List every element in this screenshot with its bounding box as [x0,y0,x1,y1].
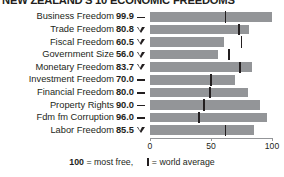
world-average-marker [239,62,241,73]
economic-freedoms-chart: NEW ZEALAND'S 10 ECONOMIC FREEDOMS Busin… [0,0,284,177]
row-value: 80.0 [112,87,134,98]
bar-track [150,99,272,112]
chart-plot-area [150,11,272,137]
bar-track [150,124,272,137]
bar [150,37,224,47]
world-average-tick-icon [147,158,149,166]
bar [150,50,218,60]
row-label: Monetary Freedom [0,62,114,73]
row-label: Financial Freedom [0,87,114,98]
footnote-most-free-text: = most free, [84,157,133,167]
row-value: 70.0 [112,74,134,85]
row-label: Fdm fm Corruption [0,112,114,123]
row-label: Business Freedom [0,11,114,22]
axis-tick-label: 50 [206,141,216,151]
row-label: Labor Freedom [0,125,114,136]
row-value: 80.8 [112,24,134,35]
bar-track [150,24,272,37]
row-value: 96.0 [112,112,134,123]
x-axis: 050100 [150,138,272,156]
trend-flat-icon [136,99,148,111]
row-label: Investment Freedom [0,74,114,85]
row-label: Trade Freedom [0,24,114,35]
bar-track [150,36,272,49]
bar [150,88,248,98]
world-average-marker [238,24,240,35]
row-value: 90.0 [112,100,134,111]
bar [150,12,272,22]
bar [150,75,235,85]
bar-track [150,74,272,87]
world-average-marker [225,11,227,22]
trend-flat-icon [136,11,148,23]
bar [150,125,254,135]
footnote-most-free-value: 100 [69,157,84,167]
axis-tick-label: 0 [148,141,153,151]
bar [150,100,260,110]
row-label: Government Size [0,49,114,60]
trend-down-icon [136,49,148,61]
row-label: Fiscal Freedom [0,37,114,48]
world-average-marker [225,125,227,136]
bar-track [150,11,272,24]
bar-track [150,87,272,100]
bar [150,113,267,123]
chart-footnote: 100 = most free,= world average [0,157,284,168]
row-value: 99.9 [112,11,134,22]
row-value: 83.7 [112,62,134,73]
bar-track [150,112,272,125]
bar-track [150,49,272,62]
world-average-marker [228,49,230,60]
trend-flat-icon [136,112,148,124]
trend-flat-icon [136,74,148,86]
row-value: 56.0 [112,49,134,60]
world-average-marker [210,74,212,85]
trend-down-icon [136,36,148,48]
trend-down-icon [136,61,148,73]
trend-down-icon [136,124,148,136]
world-average-marker [241,36,243,47]
world-average-marker [203,99,205,110]
world-average-marker [209,87,211,98]
row-value: 60.5 [112,37,134,48]
footnote-world-average-text: = world average [152,157,215,167]
row-label: Property Rights [0,100,114,111]
bar [150,25,249,35]
trend-down-icon [136,24,148,36]
bar-track [150,61,272,74]
row-value: 85.5 [112,125,134,136]
trend-flat-icon [136,87,148,99]
chart-title: NEW ZEALAND'S 10 ECONOMIC FREEDOMS [2,0,282,6]
world-average-marker [198,112,200,123]
bar [150,62,252,72]
axis-tick-label: 100 [265,141,279,151]
